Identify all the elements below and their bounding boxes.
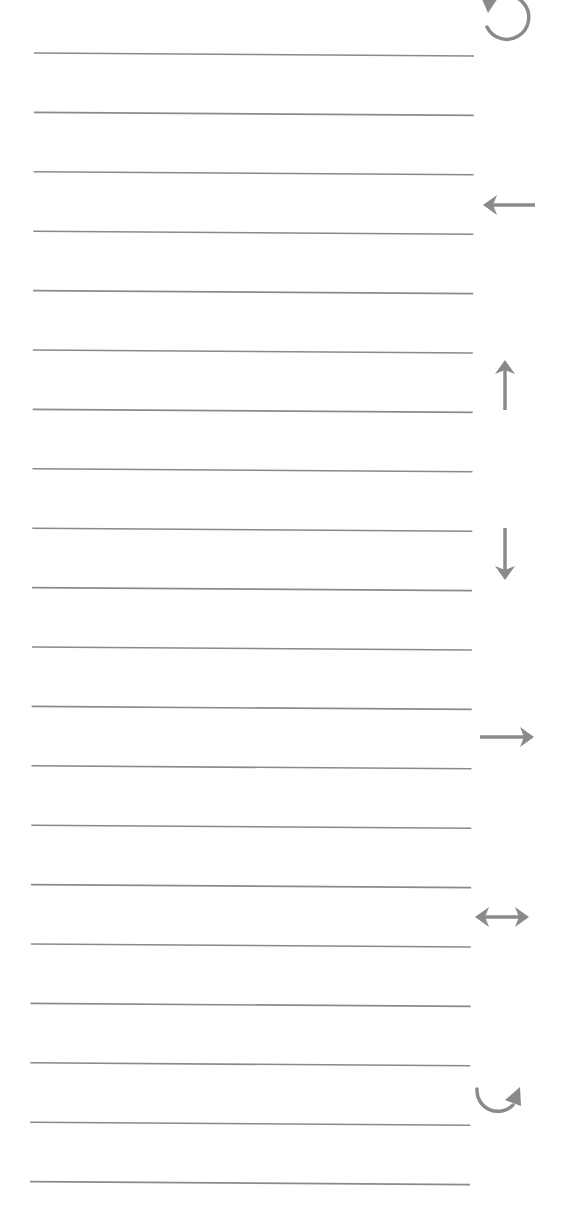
arrow-right-icon [472,702,542,772]
rotate-counterclockwise-icon [470,0,540,57]
ruled-line [33,231,473,234]
ruled-line [31,1003,471,1006]
arrow-left-icon [475,170,545,240]
arrow-up-icon [470,350,540,420]
ruled-line [30,1063,470,1066]
ruled-line [33,409,473,412]
ruled-line [33,469,473,472]
ruled-line [32,588,472,591]
ruled-line [32,647,472,650]
ruled-line [34,112,474,115]
ruled-line [30,1122,470,1125]
arrow-down-icon [470,520,540,590]
ruled-line [34,53,474,56]
ruled-line [34,172,474,175]
ruled-line [32,528,472,531]
arrow-left-right-icon [467,882,537,952]
ruled-line [30,1182,470,1185]
ruled-line [33,350,473,353]
ruled-line [32,766,472,769]
ruled-line [33,291,473,294]
ruled-line [31,825,471,828]
curved-arrow-clockwise-icon [463,1063,533,1133]
ruled-line [32,706,472,709]
ruled-line [31,944,471,947]
ruled-line [31,885,471,888]
